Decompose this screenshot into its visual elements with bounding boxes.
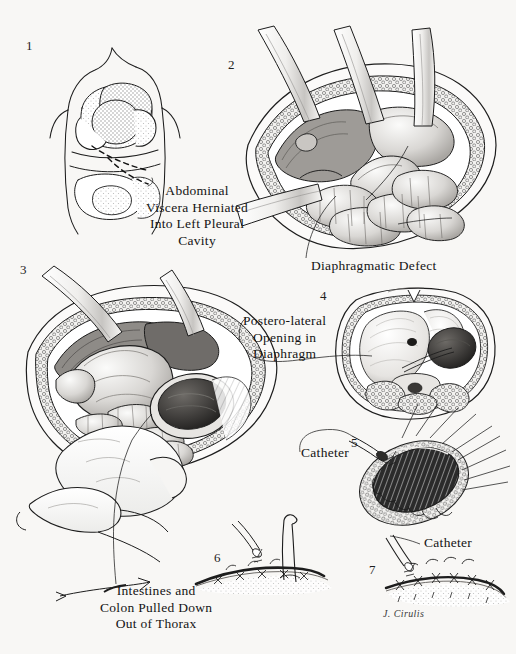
caption-panel-5: Catheter bbox=[301, 445, 349, 462]
panel-number-4: 4 bbox=[320, 288, 327, 304]
caption-panel-7: Catheter bbox=[424, 535, 472, 552]
illustration-plate: 1 2 3 4 5 6 7 Abdominal Viscera Herniate… bbox=[0, 0, 516, 654]
caption-panel-4: Postero-lateral Opening in Diaphragm bbox=[243, 313, 326, 363]
caption-panel-2: Diaphragmatic Defect bbox=[311, 258, 437, 275]
panel-number-6: 6 bbox=[214, 550, 221, 566]
panel-number-3: 3 bbox=[20, 262, 27, 278]
panel-number-2: 2 bbox=[228, 57, 235, 73]
artist-signature: J. Cirulis bbox=[383, 608, 424, 619]
panel-number-1: 1 bbox=[26, 38, 33, 54]
caption-panel-3: Intestines and Colon Pulled Down Out of … bbox=[100, 583, 212, 633]
caption-panel-1: Abdominal Viscera Herniated Into Left Pl… bbox=[146, 183, 248, 249]
panel-number-5: 5 bbox=[351, 435, 358, 451]
panel-number-7: 7 bbox=[369, 562, 376, 578]
